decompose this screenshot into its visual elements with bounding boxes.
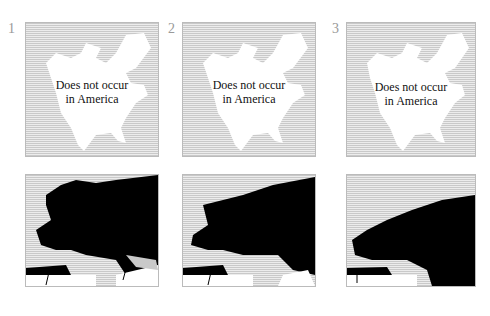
europe-range-map-3 bbox=[346, 174, 476, 287]
label-line2: in America bbox=[347, 94, 475, 108]
north-america-map-3: Does not occur in America bbox=[346, 22, 476, 157]
panel-number-3: 3 bbox=[332, 22, 339, 36]
label-line2: in America bbox=[183, 92, 315, 106]
europe-range-map-1 bbox=[25, 174, 159, 287]
label-line1: Does not occur bbox=[347, 80, 475, 94]
north-america-map-1: Does not occur in America bbox=[25, 22, 159, 157]
north-america-map-2: Does not occur in America bbox=[182, 22, 316, 157]
label-line1: Does not occur bbox=[26, 78, 158, 92]
panel-number-1: 1 bbox=[8, 22, 15, 36]
label-line2: in America bbox=[26, 92, 158, 106]
europe-range-map-2 bbox=[182, 174, 316, 287]
panel-number-2: 2 bbox=[168, 22, 175, 36]
label-line1: Does not occur bbox=[183, 78, 315, 92]
